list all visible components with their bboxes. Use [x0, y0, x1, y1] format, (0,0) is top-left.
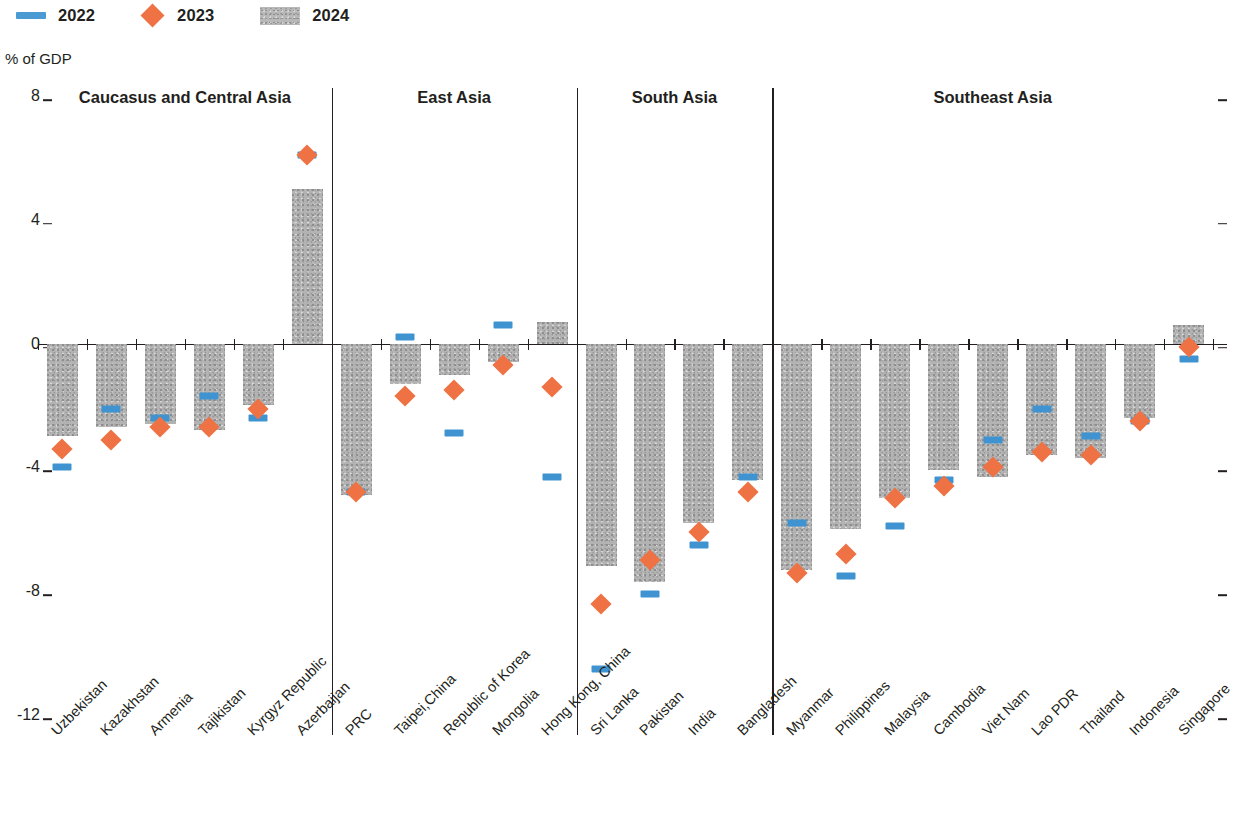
x-axis-label: Indonesia: [1126, 683, 1182, 739]
marker-2023: [444, 379, 465, 400]
x-axis-tick-mark: [919, 339, 920, 350]
x-axis-label: India: [685, 705, 719, 739]
x-axis-label: Armenia: [146, 689, 195, 738]
x-axis-label: Lao PDR: [1028, 685, 1081, 738]
x-axis-tick-mark: [185, 339, 186, 350]
y-axis-tick-label: -8: [0, 582, 40, 600]
x-axis-tick-mark: [234, 339, 235, 350]
x-axis-label: Mongolia: [489, 685, 542, 738]
x-axis-tick-mark: [674, 339, 675, 350]
bar-2024: [928, 344, 959, 471]
marker-2023: [52, 438, 73, 459]
x-axis-label: Cambodia: [930, 680, 988, 738]
x-axis-tick-mark: [430, 339, 431, 350]
x-axis-tick-mark: [870, 339, 871, 350]
marker-2022: [543, 473, 562, 480]
bar-2024: [683, 344, 714, 524]
y-axis-tick-mark: [43, 99, 52, 101]
marker-2022: [787, 520, 806, 527]
marker-2022: [885, 523, 904, 530]
bar-2024: [1075, 344, 1106, 459]
bar-2024: [1124, 344, 1155, 418]
marker-2022: [200, 393, 219, 400]
x-axis-tick-mark: [87, 339, 88, 350]
marker-2022: [53, 464, 72, 471]
chart-plot-area: 840-4-8-12Caucasus and Central AsiaEast …: [0, 0, 1237, 835]
y-axis-tick-mark-right: [1218, 99, 1227, 101]
y-axis-tick-label: 0: [0, 335, 40, 353]
x-axis-label: Tajikistan: [195, 685, 248, 738]
bar-2024: [634, 344, 665, 582]
x-axis-tick-mark: [626, 339, 627, 350]
y-axis-tick-mark-right: [1218, 347, 1227, 349]
group-divider-line: [772, 88, 774, 735]
marker-2023: [835, 543, 856, 564]
x-axis-label: Thailand: [1077, 688, 1128, 739]
x-axis-tick-mark: [1017, 339, 1018, 350]
bar-2024: [47, 344, 78, 437]
bar-2024: [537, 322, 568, 344]
bar-2024: [292, 189, 323, 344]
bar-2024: [96, 344, 127, 428]
y-axis-tick-mark: [43, 718, 52, 720]
marker-2022: [836, 572, 855, 579]
y-axis-tick-label: 4: [0, 211, 40, 229]
bar-2024: [439, 344, 470, 375]
group-title: Southeast Asia: [933, 88, 1052, 107]
marker-2023: [297, 144, 318, 165]
x-axis-tick-mark: [1164, 339, 1165, 350]
y-axis-tick-mark: [43, 471, 52, 473]
marker-2022: [738, 473, 757, 480]
marker-2023: [590, 593, 611, 614]
bar-2024: [586, 344, 617, 567]
x-axis-tick-mark: [968, 339, 969, 350]
x-axis-label: PRC: [342, 705, 375, 738]
x-axis-label: Pakistan: [636, 688, 687, 739]
group-divider-line: [577, 88, 579, 735]
marker-2022: [445, 430, 464, 437]
marker-2022: [640, 591, 659, 598]
marker-2022: [396, 334, 415, 341]
marker-2022: [1032, 405, 1051, 412]
y-axis-tick-mark: [43, 594, 52, 596]
x-axis-tick-mark: [381, 339, 382, 350]
x-axis-tick-mark: [1115, 339, 1116, 350]
bar-2024: [732, 344, 763, 480]
bar-2024: [243, 344, 274, 406]
bar-2024: [830, 344, 861, 530]
x-axis-tick-mark: [283, 339, 284, 350]
bar-2024: [390, 344, 421, 384]
bar-2024: [1026, 344, 1057, 455]
x-axis-tick-mark: [821, 339, 822, 350]
marker-2023: [541, 376, 562, 397]
x-axis-label: Viet Nam: [979, 685, 1032, 738]
x-axis-tick-mark: [528, 339, 529, 350]
x-axis-tick-mark: [38, 339, 39, 350]
x-axis-tick-mark: [1066, 339, 1067, 350]
marker-2022: [494, 322, 513, 329]
group-title: South Asia: [632, 88, 718, 107]
group-divider-line: [332, 88, 334, 735]
group-title: East Asia: [417, 88, 491, 107]
bar-2024: [781, 344, 812, 570]
x-axis-label: Malaysia: [881, 687, 933, 739]
y-axis-tick-mark: [43, 223, 52, 225]
marker-2023: [395, 386, 416, 407]
x-axis-label: Republic of Korea: [440, 645, 533, 738]
x-axis-label: Hong Kong, China: [538, 643, 633, 738]
y-axis-tick-label: 8: [0, 87, 40, 105]
y-axis-tick-label: -4: [0, 458, 40, 476]
y-axis-tick-mark-right: [1218, 594, 1227, 596]
bar-2024: [879, 344, 910, 499]
y-axis-tick-mark-right: [1218, 223, 1227, 225]
x-axis-label: Singapore: [1175, 680, 1233, 738]
bar-2024: [145, 344, 176, 424]
x-axis-tick-mark: [1213, 339, 1214, 350]
x-axis-tick-mark: [136, 339, 137, 350]
x-axis-tick-mark: [723, 339, 724, 350]
marker-2022: [102, 405, 121, 412]
marker-2023: [101, 429, 122, 450]
bar-2024: [341, 344, 372, 496]
marker-2023: [688, 522, 709, 543]
y-axis-tick-mark-right: [1218, 718, 1227, 720]
